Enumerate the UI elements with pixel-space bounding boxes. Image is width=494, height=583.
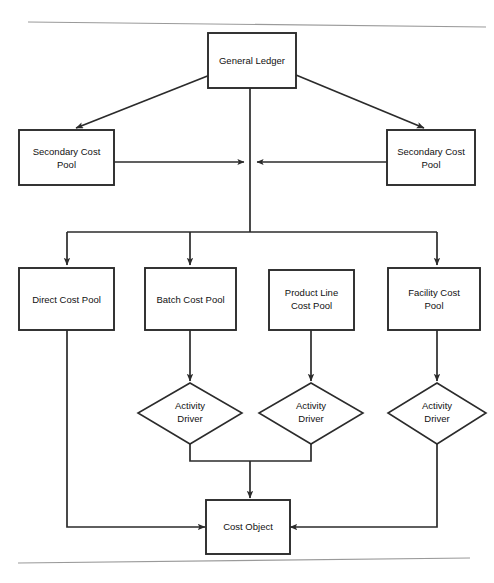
- activity-driver-facility-label-line2: Driver: [424, 413, 449, 424]
- node-facility-cost-pool[interactable]: Facility Cost Pool: [388, 268, 480, 330]
- activity-driver-product-line-label-line2: Driver: [298, 413, 323, 424]
- page-rule-bottom: [18, 558, 470, 563]
- secondary-cost-pool-left-label-line2: Pool: [57, 159, 76, 170]
- product-line-cost-pool-label-line1: Product Line: [285, 287, 338, 298]
- secondary-cost-pool-left-label-line1: Secondary Cost: [33, 146, 101, 157]
- node-activity-driver-facility[interactable]: Activity Driver: [388, 383, 486, 444]
- node-product-line-cost-pool[interactable]: Product Line Cost Pool: [269, 270, 354, 330]
- connector-gl-to-secondary-right: [296, 75, 424, 128]
- connector-driver-merge-bar: [190, 444, 311, 461]
- node-secondary-cost-pool-right[interactable]: Secondary Cost Pool: [387, 130, 475, 185]
- direct-cost-pool-label: Direct Cost Pool: [32, 294, 101, 305]
- node-cost-object[interactable]: Cost Object: [206, 500, 290, 554]
- facility-cost-pool-label-line2: Pool: [424, 300, 443, 311]
- activity-driver-batch-label-line2: Driver: [177, 413, 202, 424]
- batch-cost-pool-label: Batch Cost Pool: [156, 294, 224, 305]
- secondary-cost-pool-right-box[interactable]: [387, 130, 475, 185]
- node-secondary-cost-pool-left[interactable]: Secondary Cost Pool: [19, 130, 114, 185]
- node-batch-cost-pool[interactable]: Batch Cost Pool: [145, 268, 236, 330]
- activity-driver-batch-label-line1: Activity: [175, 400, 205, 411]
- secondary-cost-pool-right-label-line2: Pool: [421, 159, 440, 170]
- page-rule-top: [28, 22, 486, 27]
- general-ledger-label: General Ledger: [219, 55, 285, 66]
- cost-object-label: Cost Object: [223, 521, 273, 532]
- node-direct-cost-pool[interactable]: Direct Cost Pool: [19, 268, 114, 330]
- connector-facility-driver-to-cost-object: [290, 444, 437, 527]
- product-line-cost-pool-label-line2: Cost Pool: [291, 300, 332, 311]
- node-activity-driver-product-line[interactable]: Activity Driver: [259, 383, 363, 444]
- facility-cost-pool-label-line1: Facility Cost: [408, 287, 460, 298]
- secondary-cost-pool-right-label-line1: Secondary Cost: [397, 146, 465, 157]
- cost-allocation-diagram: General Ledger Secondary Cost Pool Secon…: [0, 0, 494, 583]
- activity-driver-product-line-label-line1: Activity: [296, 400, 326, 411]
- secondary-cost-pool-left-box[interactable]: [19, 130, 114, 185]
- connector-gl-to-secondary-left: [76, 75, 210, 128]
- activity-driver-facility-label-line1: Activity: [422, 400, 452, 411]
- node-activity-driver-batch[interactable]: Activity Driver: [138, 383, 242, 444]
- node-general-ledger[interactable]: General Ledger: [208, 33, 296, 88]
- diagram-page: General Ledger Secondary Cost Pool Secon…: [0, 0, 494, 583]
